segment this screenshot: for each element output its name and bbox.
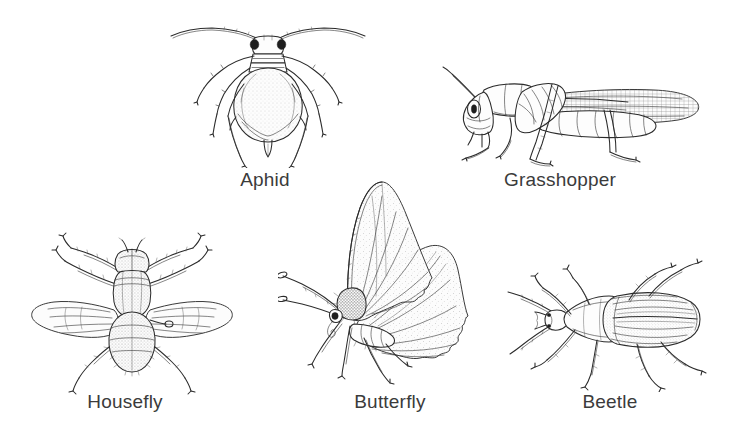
caption-butterfly: Butterfly [325, 392, 455, 411]
beetle-illustration [505, 252, 725, 392]
caption-housefly: Housefly [65, 392, 185, 411]
beetle-icon [505, 252, 725, 392]
grasshopper-illustration [432, 52, 732, 172]
aphid-icon [168, 18, 368, 168]
housefly-icon [22, 228, 242, 396]
caption-beetle: Beetle [555, 392, 665, 411]
butterfly-icon [278, 166, 493, 391]
insect-plate: Aphid Grasshopper Housefly Butterfly Bee… [0, 0, 756, 442]
butterfly-illustration [278, 166, 493, 391]
caption-aphid: Aphid [205, 170, 325, 189]
housefly-illustration [22, 228, 242, 396]
caption-grasshopper: Grasshopper [490, 170, 630, 189]
grasshopper-icon [432, 52, 732, 172]
aphid-illustration [168, 18, 368, 168]
